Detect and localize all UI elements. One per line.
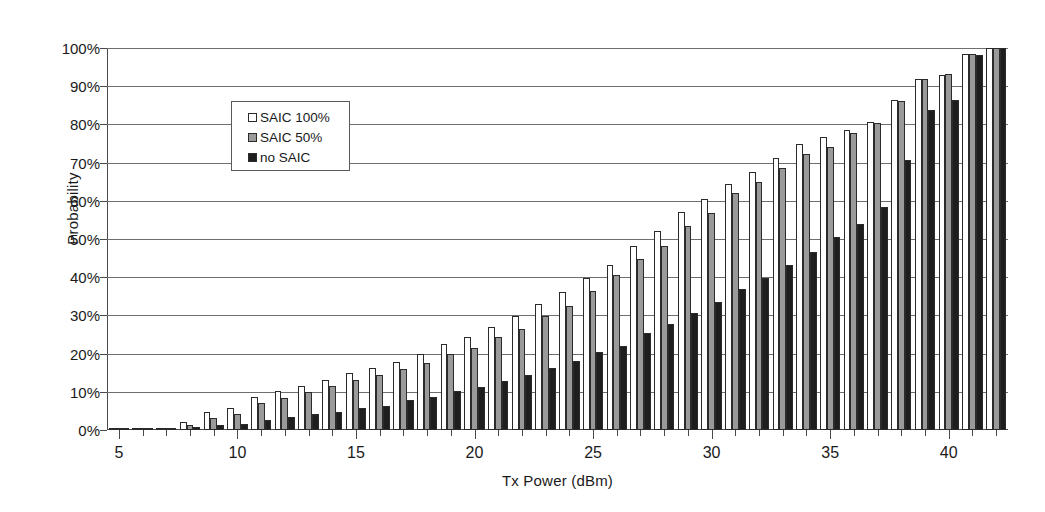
- bar: [346, 373, 353, 430]
- x-tick-mark: [237, 430, 238, 439]
- bar: [881, 207, 888, 430]
- bar: [359, 408, 366, 430]
- bar: [329, 386, 336, 430]
- bar: [502, 381, 509, 430]
- legend-label-saic-50: SAIC 50%: [260, 130, 322, 145]
- bar-group: [369, 48, 389, 430]
- legend-item-no-saic: no SAIC: [248, 147, 349, 167]
- bar: [739, 289, 746, 430]
- bar: [488, 327, 495, 430]
- bar-group: [417, 48, 437, 430]
- bar: [678, 212, 685, 430]
- bar: [583, 278, 590, 430]
- bar: [691, 313, 698, 430]
- bar: [786, 265, 793, 430]
- bar: [471, 348, 478, 430]
- x-tick-label: 25: [584, 444, 602, 462]
- x-tick-mark: [332, 430, 333, 436]
- x-tick-label: 30: [703, 444, 721, 462]
- y-tick-mark: [100, 239, 107, 240]
- x-tick-mark: [878, 430, 879, 436]
- bar: [857, 224, 864, 430]
- x-tick-label: 40: [940, 444, 958, 462]
- bar: [305, 392, 312, 430]
- bar: [701, 199, 708, 430]
- bar: [749, 172, 756, 430]
- x-tick-mark: [451, 430, 452, 436]
- x-tick-mark: [735, 430, 736, 436]
- chart-figure: Probability 0%10%20%30%40%50%60%70%80%90…: [0, 0, 1045, 512]
- bar: [573, 361, 580, 430]
- bar: [915, 79, 922, 430]
- bar: [400, 369, 407, 431]
- x-tick-mark: [403, 430, 404, 436]
- bar-group: [725, 48, 745, 430]
- bar: [146, 428, 153, 430]
- x-tick-label: 35: [821, 444, 839, 462]
- bar: [590, 291, 597, 430]
- x-tick-label: 15: [347, 444, 365, 462]
- y-tick-mark: [100, 277, 107, 278]
- bar-group: [630, 48, 650, 430]
- bar: [620, 346, 627, 430]
- bar: [607, 265, 614, 430]
- bar-group: [773, 48, 793, 430]
- bar: [464, 337, 471, 430]
- bar: [193, 427, 200, 430]
- bar: [962, 54, 969, 430]
- bar-group: [986, 48, 1006, 430]
- bar-group: [132, 48, 152, 430]
- chart-legend: SAIC 100% SAIC 50% no SAIC: [231, 101, 350, 171]
- x-tick-mark: [166, 430, 167, 436]
- x-tick-mark: [356, 430, 357, 439]
- bar-group: [891, 48, 911, 430]
- bar: [820, 137, 827, 430]
- bar: [454, 391, 461, 430]
- bar: [336, 412, 343, 430]
- bar: [867, 122, 874, 430]
- legend-label-saic-100: SAIC 100%: [260, 110, 330, 125]
- y-tick-mark: [100, 315, 107, 316]
- bar: [661, 246, 668, 430]
- bar: [281, 398, 288, 430]
- bar: [637, 259, 644, 430]
- y-tick-mark: [100, 86, 107, 87]
- legend-swatch-icon-saic-100: [248, 113, 257, 122]
- y-tick-mark: [100, 124, 107, 125]
- bar: [644, 333, 651, 430]
- bar: [204, 412, 211, 430]
- bar: [180, 422, 187, 430]
- bar: [495, 337, 502, 430]
- bar: [559, 292, 566, 430]
- bar-group: [701, 48, 721, 430]
- bar-group: [678, 48, 698, 430]
- y-tick-mark: [100, 48, 107, 49]
- x-tick-mark: [949, 430, 950, 439]
- y-tick-mark: [100, 163, 107, 164]
- x-tick-mark: [901, 430, 902, 436]
- bar-group: [512, 48, 532, 430]
- y-tick-label: 70%: [48, 155, 100, 170]
- bar-group: [915, 48, 935, 430]
- x-tick-mark: [688, 430, 689, 436]
- bar: [976, 55, 983, 430]
- bar: [447, 354, 454, 430]
- bar: [241, 424, 248, 430]
- y-tick-label: 20%: [48, 346, 100, 361]
- bar: [156, 428, 163, 430]
- bar-group: [939, 48, 959, 430]
- bar-group: [796, 48, 816, 430]
- bar-group: [488, 48, 508, 430]
- x-tick-mark: [427, 430, 428, 436]
- y-tick-label: 100%: [48, 41, 100, 56]
- bar: [844, 130, 851, 430]
- x-tick-mark: [593, 430, 594, 439]
- bar-group: [204, 48, 224, 430]
- bar: [905, 160, 912, 430]
- bar: [1000, 48, 1007, 430]
- bar: [430, 397, 437, 430]
- bar: [796, 144, 803, 431]
- x-tick-mark: [806, 430, 807, 436]
- bar: [850, 133, 857, 430]
- x-tick-mark: [640, 430, 641, 436]
